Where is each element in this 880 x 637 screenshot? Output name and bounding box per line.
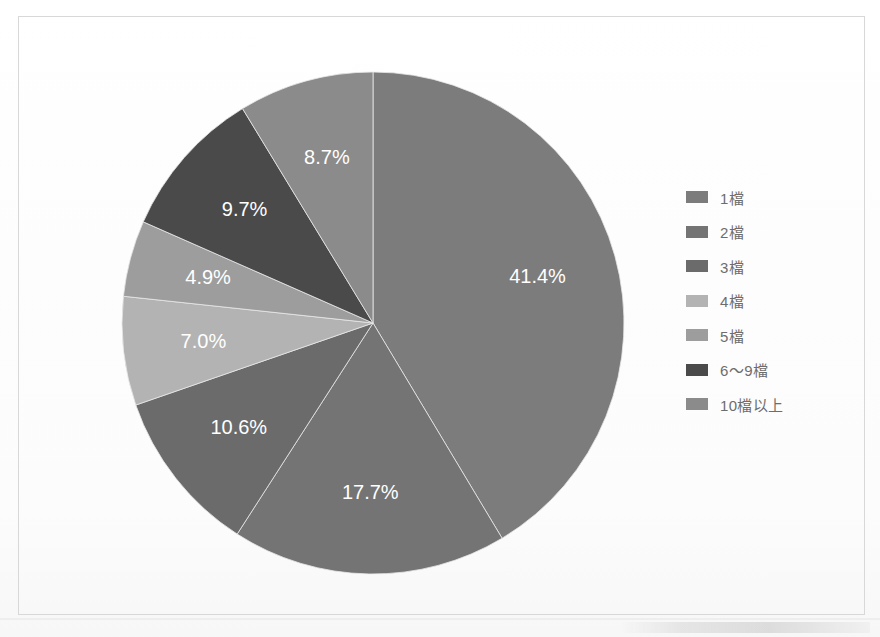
pie-slice-value-label: 4.9%: [185, 266, 231, 288]
legend-item-label: 4檔: [720, 290, 744, 311]
legend-item: 10檔以上: [686, 387, 856, 422]
legend-item-label: 5檔: [720, 325, 744, 346]
pie-slice-value-label: 7.0%: [181, 330, 227, 352]
scan-edge-line: [0, 618, 880, 620]
pie-slice-value-label: 41.4%: [509, 265, 566, 287]
scanned-page: 41.4%17.7%10.6%7.0%4.9%9.7%8.7% 1檔2檔3檔4檔…: [0, 0, 880, 637]
scan-artifact-smudge: [620, 622, 870, 633]
legend-item: 6～9檔: [686, 353, 856, 388]
legend-item: 2檔: [686, 215, 856, 250]
legend-item: 1檔: [686, 180, 856, 215]
legend-color-swatch: [686, 191, 708, 203]
legend-color-swatch: [686, 226, 708, 238]
legend-color-swatch: [686, 260, 708, 272]
legend-color-swatch: [686, 364, 708, 376]
legend-color-swatch: [686, 329, 708, 341]
pie-slice-value-label: 9.7%: [222, 198, 268, 220]
legend-item: 5檔: [686, 318, 856, 353]
pie-slice-value-label: 17.7%: [342, 481, 399, 503]
legend-item: 3檔: [686, 249, 856, 284]
pie-slice-value-label: 8.7%: [304, 146, 350, 168]
chart-legend: 1檔2檔3檔4檔5檔6～9檔10檔以上: [686, 180, 856, 422]
legend-item-label: 6～9檔: [720, 359, 768, 380]
legend-item-label: 3檔: [720, 256, 744, 277]
legend-item-label: 2檔: [720, 221, 744, 242]
legend-item-label: 1檔: [720, 187, 744, 208]
legend-color-swatch: [686, 295, 708, 307]
legend-item-label: 10檔以上: [720, 394, 784, 415]
pie-slice-value-label: 10.6%: [210, 416, 267, 438]
legend-color-swatch: [686, 398, 708, 410]
legend-item: 4檔: [686, 284, 856, 319]
